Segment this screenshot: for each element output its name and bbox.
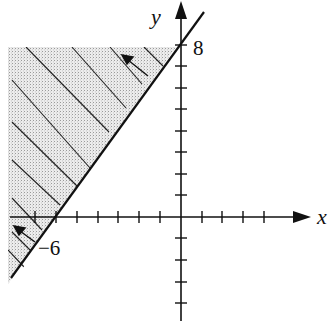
y-intercept-label: 8 [193, 36, 204, 60]
inequality-graph: y x 8 −6 [0, 0, 333, 323]
y-axis-arrow-icon [175, 1, 187, 19]
y-axis-label: y [149, 4, 161, 29]
x-intercept-label: −6 [38, 236, 60, 260]
x-axis-label: x [316, 204, 327, 229]
x-axis-arrow-icon [293, 211, 311, 223]
